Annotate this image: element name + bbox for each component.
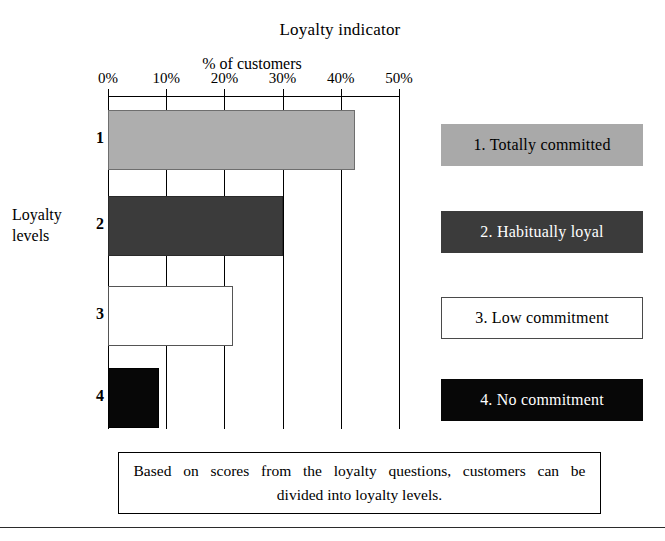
legend-item-3[interactable]: 3. Low commitment [441, 297, 643, 339]
bar-level-2[interactable] [108, 196, 283, 256]
legend-item-2[interactable]: 2. Habitually loyal [441, 211, 643, 253]
caption-box: Based on scores from the loyalty questio… [118, 452, 601, 514]
x-tick-label-0%: 0% [84, 70, 132, 87]
x-tick-30% [283, 89, 284, 96]
x-tick-label-10%: 10% [142, 70, 190, 87]
plot-area: 0%10%20%30%40%50% [108, 96, 399, 429]
chart-title: Loyalty indicator [228, 20, 452, 40]
category-label-1: 1 [86, 129, 104, 147]
bar-level-4[interactable] [108, 368, 159, 428]
x-tick-label-20%: 20% [200, 70, 248, 87]
x-tick-40% [341, 89, 342, 96]
x-tick-label-40%: 40% [317, 70, 365, 87]
bar-level-3[interactable] [108, 286, 233, 346]
bar-level-1[interactable] [108, 110, 355, 170]
bar-row-2 [108, 196, 399, 256]
loyalty-indicator-figure: Loyalty indicator % of customers Loyalty… [0, 0, 665, 541]
legend-item-1[interactable]: 1. Totally committed [441, 124, 643, 166]
bottom-divider [0, 527, 665, 528]
x-tick-label-30%: 30% [259, 70, 307, 87]
caption-line-1: Based on scores from the loyalty questio… [134, 459, 586, 483]
x-tick-10% [166, 89, 167, 96]
x-tick-50% [399, 89, 400, 96]
bar-row-1 [108, 110, 399, 170]
legend-item-4[interactable]: 4. No commitment [441, 379, 643, 421]
bar-row-3 [108, 286, 399, 346]
caption-line-2: divided into loyalty levels. [277, 483, 442, 507]
category-label-3: 3 [86, 305, 104, 323]
gridline-50% [399, 96, 400, 429]
category-label-4: 4 [86, 387, 104, 405]
bar-row-4 [108, 368, 399, 428]
x-tick-0% [108, 89, 109, 96]
category-label-2: 2 [86, 215, 104, 233]
x-axis-line [108, 96, 399, 97]
x-tick-label-50%: 50% [375, 70, 423, 87]
x-tick-20% [224, 89, 225, 96]
